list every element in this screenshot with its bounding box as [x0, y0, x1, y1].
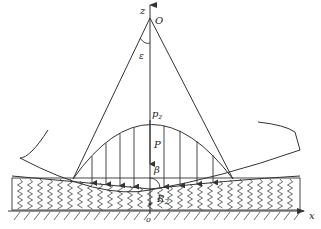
radius-sub: 2 [164, 198, 170, 206]
hatch-line [14, 212, 20, 220]
diagram-canvas: z O ε pz P β R2 o x [0, 0, 321, 229]
soil-spring [128, 186, 133, 210]
angle-beta-arc [150, 178, 160, 188]
origin-o-label: O [155, 15, 163, 26]
contact-point [148, 202, 151, 205]
soil-spring [38, 179, 43, 209]
hatch-line [54, 212, 60, 220]
hatch-line [274, 212, 280, 220]
soil-spring [108, 184, 113, 208]
soil-springs [18, 179, 293, 210]
soil-layer [12, 178, 300, 210]
radial-line-left [73, 18, 150, 179]
radial-line-right [150, 18, 233, 179]
hatch-line [224, 212, 230, 220]
soil-spring [218, 181, 223, 208]
z-axis-label: z [139, 5, 146, 16]
soil-spring [118, 185, 123, 209]
hatch-line [74, 212, 80, 220]
load-p-label: P [153, 139, 161, 150]
soil-spring [188, 184, 193, 208]
hatch-line [94, 212, 100, 220]
soil-spring [98, 183, 103, 210]
hatch-line [164, 212, 170, 220]
soil-spring [278, 179, 283, 209]
soil-spring [258, 179, 263, 209]
soil-spring [138, 187, 143, 208]
hatch-line [194, 212, 200, 220]
hatch-line [134, 212, 140, 220]
hatch-line [154, 212, 160, 220]
soil-spring [228, 180, 233, 210]
hatch-line [234, 212, 240, 220]
hatch-line [114, 212, 120, 220]
hatch-line [184, 212, 190, 220]
soil-spring [198, 183, 203, 210]
hatch-line [64, 212, 70, 220]
x-axis-label: x [309, 210, 315, 221]
soil-spring [208, 182, 213, 209]
hatch-line [264, 212, 270, 220]
hatch-line [104, 212, 110, 220]
origin-bottom-label: o [146, 215, 151, 224]
soil-spring [78, 181, 83, 208]
hatch-line [174, 212, 180, 220]
soil-spring [28, 179, 33, 209]
soil-spring [18, 179, 23, 209]
peak-pressure-sub: z [157, 113, 162, 121]
soil-spring [288, 179, 293, 209]
hatch-line [284, 212, 290, 220]
hatch-line [34, 212, 40, 220]
hatch-line [214, 212, 220, 220]
hatch-line [294, 212, 300, 220]
soil-spring [58, 179, 63, 209]
angle-epsilon-arc [140, 38, 150, 43]
hatch-line [24, 212, 30, 220]
peak-pressure-label: pz [152, 108, 162, 121]
radius-label: R2 [156, 193, 170, 206]
soil-spring [68, 179, 73, 209]
hatch-line [84, 212, 90, 220]
angle-beta-label: β [153, 164, 160, 175]
hatch-line [254, 212, 260, 220]
soil-spring [238, 179, 243, 209]
wheel-soil-pressure-diagram: z O ε pz P β R2 o x [0, 0, 321, 229]
hatch-line [44, 212, 50, 220]
soil-spring [48, 179, 53, 209]
soil-spring [178, 185, 183, 209]
hatch-line [204, 212, 210, 220]
hatch-line [124, 212, 130, 220]
soil-spring [248, 179, 253, 209]
angle-epsilon-label: ε [139, 51, 144, 61]
soil-spring [268, 179, 273, 209]
hatch-line [244, 212, 250, 220]
ground-hatch [14, 212, 300, 220]
